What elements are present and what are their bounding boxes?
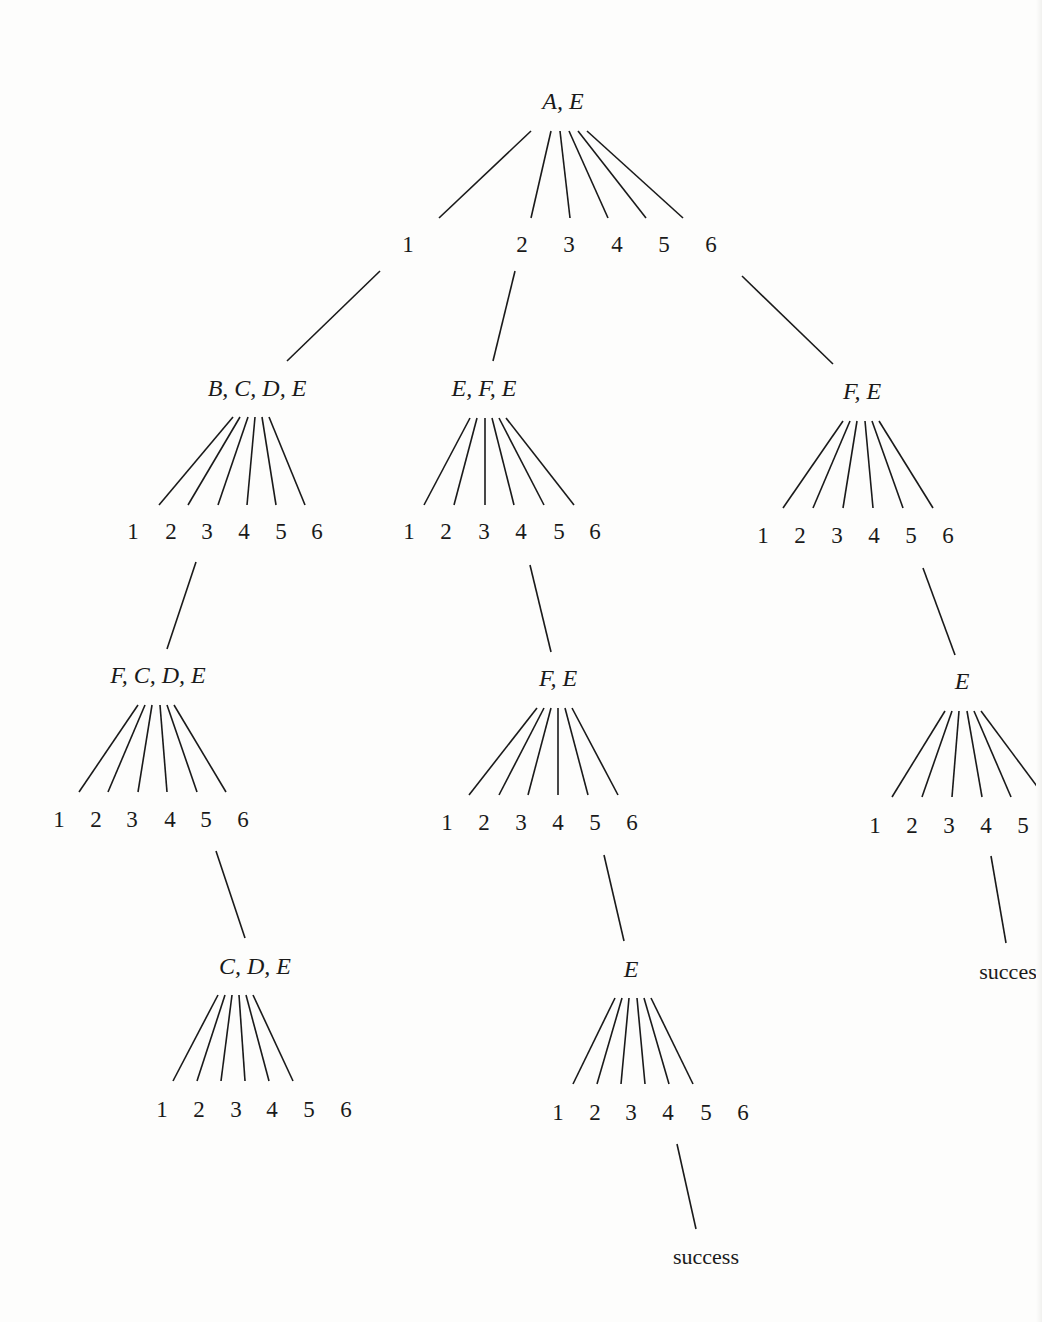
branch-number: 6 bbox=[237, 807, 249, 833]
branch-number: 1 bbox=[757, 523, 769, 549]
link-edge bbox=[493, 271, 515, 361]
branch-number: 5 bbox=[905, 523, 917, 549]
branch-number: 1 bbox=[402, 232, 414, 258]
branch-number: 2 bbox=[478, 810, 490, 836]
success-label: success bbox=[673, 1244, 739, 1270]
branch-edge bbox=[469, 708, 537, 795]
branch-edge bbox=[424, 418, 470, 505]
success-label: succes bbox=[979, 959, 1036, 985]
link-edge bbox=[742, 276, 833, 364]
branch-edge bbox=[528, 708, 551, 795]
branch-number: 4 bbox=[552, 810, 564, 836]
branch-edge bbox=[531, 131, 551, 218]
branch-number: 3 bbox=[515, 810, 527, 836]
branch-edge bbox=[79, 705, 138, 792]
branch-number: 6 bbox=[311, 519, 323, 545]
branch-number: 4 bbox=[164, 807, 176, 833]
branch-edge bbox=[454, 418, 477, 505]
branch-number: 1 bbox=[127, 519, 139, 545]
branch-number: 3 bbox=[563, 232, 575, 258]
link-edge bbox=[923, 568, 955, 655]
branch-number: 1 bbox=[53, 807, 65, 833]
branch-number: 5 bbox=[700, 1100, 712, 1126]
branch-edge bbox=[246, 995, 269, 1081]
branch-edge bbox=[565, 708, 588, 795]
branch-edge bbox=[253, 995, 293, 1081]
branch-number: 4 bbox=[980, 813, 992, 839]
link-edge bbox=[167, 562, 196, 649]
branch-number: 6 bbox=[626, 810, 638, 836]
branch-number: 3 bbox=[831, 523, 843, 549]
tree-node-label: B, C, D, E bbox=[208, 375, 307, 402]
tree-node-label: A, E bbox=[542, 88, 583, 115]
branch-number: 4 bbox=[868, 523, 880, 549]
branch-edge bbox=[981, 711, 1042, 793]
branch-number: 1 bbox=[552, 1100, 564, 1126]
branch-edge bbox=[506, 418, 574, 505]
branch-number: 5 bbox=[275, 519, 287, 545]
branch-edge bbox=[160, 705, 167, 792]
branch-edge bbox=[239, 995, 245, 1081]
link-edge bbox=[604, 855, 624, 941]
branch-number: 1 bbox=[441, 810, 453, 836]
branch-number: 5 bbox=[200, 807, 212, 833]
branch-edge bbox=[783, 421, 843, 508]
branch-number: 4 bbox=[515, 519, 527, 545]
branch-number: 5 bbox=[589, 810, 601, 836]
branch-number: 3 bbox=[230, 1097, 242, 1123]
branch-edge bbox=[560, 131, 570, 218]
branch-number: 5 bbox=[658, 232, 670, 258]
branch-edge bbox=[499, 708, 544, 795]
branch-number: 2 bbox=[906, 813, 918, 839]
branch-edge bbox=[221, 995, 232, 1081]
branch-edge bbox=[621, 998, 629, 1084]
branch-edge bbox=[572, 708, 618, 795]
branch-number: 6 bbox=[942, 523, 954, 549]
tree-node-label: E bbox=[624, 956, 639, 983]
branch-edge bbox=[247, 417, 255, 505]
link-edge bbox=[530, 565, 551, 652]
branch-number: 1 bbox=[403, 519, 415, 545]
branch-number: 3 bbox=[625, 1100, 637, 1126]
branch-number: 1 bbox=[156, 1097, 168, 1123]
tree-node-label: C, D, E bbox=[219, 953, 291, 980]
branch-number: 2 bbox=[165, 519, 177, 545]
branch-number: 2 bbox=[193, 1097, 205, 1123]
branch-edge bbox=[865, 421, 873, 508]
branch-number: 3 bbox=[126, 807, 138, 833]
branch-number: 2 bbox=[516, 232, 528, 258]
branch-number: 6 bbox=[589, 519, 601, 545]
branch-number: 4 bbox=[662, 1100, 674, 1126]
link-edge bbox=[287, 271, 380, 361]
link-edge bbox=[677, 1144, 696, 1229]
branch-number: 2 bbox=[90, 807, 102, 833]
branch-number: 6 bbox=[737, 1100, 749, 1126]
branch-edge bbox=[637, 998, 645, 1084]
branch-number: 5 bbox=[1017, 813, 1029, 839]
branch-edge bbox=[952, 711, 959, 797]
link-edge bbox=[991, 856, 1006, 943]
branch-number: 2 bbox=[794, 523, 806, 549]
tree-node-label: F, C, D, E bbox=[110, 662, 206, 689]
tree-node-label: F, E bbox=[843, 378, 881, 405]
branch-number: 2 bbox=[589, 1100, 601, 1126]
branch-number: 5 bbox=[553, 519, 565, 545]
branch-edge bbox=[499, 418, 544, 505]
branch-number: 5 bbox=[303, 1097, 315, 1123]
tree-node-label: E, F, E bbox=[452, 375, 517, 402]
branch-number: 3 bbox=[943, 813, 955, 839]
branch-number: 1 bbox=[869, 813, 881, 839]
branch-number: 3 bbox=[201, 519, 213, 545]
branch-number: 4 bbox=[266, 1097, 278, 1123]
branch-number: 3 bbox=[478, 519, 490, 545]
branch-number: 6 bbox=[705, 232, 717, 258]
tree-node-label: E bbox=[955, 668, 970, 695]
tree-node-label: F, E bbox=[539, 665, 577, 692]
branch-number: 2 bbox=[440, 519, 452, 545]
branch-edge bbox=[492, 418, 514, 505]
branch-edge bbox=[439, 131, 531, 218]
link-edge bbox=[216, 851, 245, 938]
branch-number: 6 bbox=[340, 1097, 352, 1123]
branch-number: 4 bbox=[611, 232, 623, 258]
branch-number: 4 bbox=[238, 519, 250, 545]
